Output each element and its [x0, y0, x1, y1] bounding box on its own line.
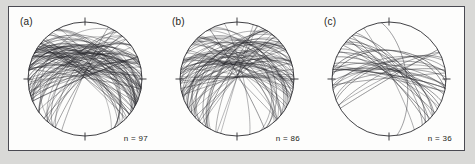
stereonet-svg-a	[19, 13, 151, 145]
panel-count-c: n = 36	[428, 134, 452, 143]
great-circle	[381, 22, 408, 135]
great-circle-group-c	[332, 22, 446, 135]
stereonet-b	[171, 13, 303, 145]
panel-label-a: (a)	[20, 16, 33, 27]
panel-count-b: n = 86	[276, 134, 300, 143]
great-circle	[338, 52, 439, 105]
figure-frame: (a) n = 97 (b) n = 86 (c) n = 36	[8, 6, 465, 151]
panel-count-a: n = 97	[124, 134, 148, 143]
great-circle	[339, 52, 440, 105]
panel-a: (a) n = 97	[9, 7, 161, 150]
great-circle-group-b	[180, 23, 294, 134]
figure-root: (a) n = 97 (b) n = 86 (c) n = 36	[0, 0, 475, 164]
stereonet-a	[19, 13, 151, 145]
great-circle	[333, 69, 446, 88]
stereonet-c	[323, 13, 455, 145]
panel-c: (c) n = 36	[313, 7, 465, 150]
panel-label-c: (c)	[324, 16, 336, 27]
great-circle	[333, 69, 445, 88]
stereonet-svg-c	[323, 13, 455, 145]
great-circle-group-a	[28, 27, 142, 131]
great-circle	[339, 52, 440, 105]
great-circle	[353, 34, 425, 122]
stereonet-svg-b	[171, 13, 303, 145]
panel-b: (b) n = 86	[161, 7, 313, 150]
panel-label-b: (b)	[172, 16, 185, 27]
primitive-circle	[332, 22, 446, 136]
